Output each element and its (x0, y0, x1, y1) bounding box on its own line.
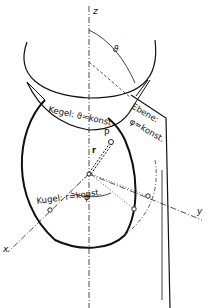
cone-rim (24, 40, 156, 98)
y-axis-label: y (196, 206, 203, 216)
radius-label: r (92, 146, 96, 155)
x-axis (8, 174, 89, 252)
z-axis-label: z (92, 6, 98, 16)
cone-label: Kegel: ϑ=konst. (48, 104, 116, 128)
point-p (109, 140, 114, 145)
plane-label-line2: φ=konst. (128, 116, 166, 144)
point-label: P (104, 128, 110, 138)
cone-surface (27, 82, 132, 130)
theta-label: ϑ (113, 44, 119, 54)
sphere-label: Kugel: r=konst. (36, 187, 102, 206)
spherical-coordinates-diagram: z x y ϑ φ P r Kegel: ϑ=konst. Ebene: φ=k… (0, 0, 210, 308)
theta-arc (89, 30, 135, 83)
x-axis-label: x (2, 244, 9, 254)
sphere-surface (22, 100, 136, 248)
